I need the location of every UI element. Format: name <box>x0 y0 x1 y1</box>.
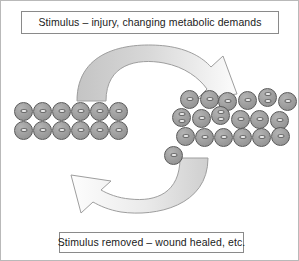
cell-nucleus <box>182 134 189 138</box>
hyperplastic-cell <box>250 110 269 129</box>
hyperplastic-dividing-cell <box>172 108 191 127</box>
cell-nucleus <box>115 109 122 113</box>
cell-nucleus <box>264 92 271 96</box>
cell-nucleus <box>258 135 265 139</box>
stimulus-label-text: Stimulus – injury, changing metabolic de… <box>38 17 261 28</box>
hyperplastic-cell <box>278 92 297 111</box>
cell-nucleus <box>239 135 246 139</box>
stimulus-removed-label-text: Stimulus removed – wound healed, etc. <box>58 237 246 248</box>
hyperplastic-cell <box>195 128 214 147</box>
cell-nucleus <box>58 128 65 132</box>
cell-nucleus <box>224 99 231 103</box>
cell-nucleus <box>20 109 27 113</box>
hyperplastic-cell-population <box>172 90 299 170</box>
stimulus-removed-label-box: Stimulus removed – wound healed, etc. <box>59 232 244 253</box>
hyperplastic-cell <box>233 128 252 147</box>
normal-cell <box>52 121 71 140</box>
hyperplastic-cell <box>164 146 183 165</box>
hyperplasia-diagram: Stimulus – injury, changing metabolic de… <box>0 0 299 261</box>
cell-nucleus <box>284 99 291 103</box>
cell-nucleus <box>198 116 205 120</box>
stimulus-label-box: Stimulus – injury, changing metabolic de… <box>21 11 279 34</box>
cell-nucleus <box>178 112 185 116</box>
cell-nucleus <box>20 128 27 132</box>
cell-nucleus <box>96 128 103 132</box>
cell-nucleus <box>244 98 251 102</box>
hyperplastic-cell <box>271 127 290 146</box>
normal-cell <box>33 121 52 140</box>
normal-cell <box>71 121 90 140</box>
cell-nucleus <box>178 119 185 123</box>
cell-nucleus <box>39 128 46 132</box>
normal-cell <box>14 102 33 121</box>
hyperplastic-cell <box>176 127 195 146</box>
cell-nucleus <box>217 117 224 121</box>
normal-cell <box>33 102 52 121</box>
hyperplastic-dividing-cell <box>211 106 230 125</box>
cell-nucleus <box>264 99 271 103</box>
hyperplastic-cell <box>238 91 257 110</box>
normal-cell <box>71 102 90 121</box>
hyperplastic-cell <box>192 109 211 128</box>
hyperplastic-cell <box>214 128 233 147</box>
cell-nucleus <box>256 117 263 121</box>
cell-nucleus <box>201 135 208 139</box>
cell-nucleus <box>96 109 103 113</box>
normal-cell <box>90 102 109 121</box>
cell-nucleus <box>77 109 84 113</box>
normal-cell <box>52 102 71 121</box>
cell-nucleus <box>217 110 224 114</box>
cell-nucleus <box>220 135 227 139</box>
cell-nucleus <box>186 97 193 101</box>
cell-nucleus <box>39 109 46 113</box>
cell-nucleus <box>206 97 213 101</box>
cell-nucleus <box>277 134 284 138</box>
hyperplastic-cell <box>180 90 199 109</box>
hyperplastic-dividing-cell <box>258 88 277 107</box>
cell-nucleus <box>276 118 283 122</box>
normal-cell-population <box>14 102 129 142</box>
normal-cell <box>109 102 128 121</box>
cell-nucleus <box>77 128 84 132</box>
normal-cell <box>109 121 128 140</box>
cell-nucleus <box>115 128 122 132</box>
hyperplastic-cell <box>231 110 250 129</box>
hyperplastic-cell <box>252 128 271 147</box>
cell-nucleus <box>58 109 65 113</box>
cell-nucleus <box>237 117 244 121</box>
normal-cell <box>14 121 33 140</box>
normal-cell <box>90 121 109 140</box>
cell-nucleus <box>170 153 177 157</box>
